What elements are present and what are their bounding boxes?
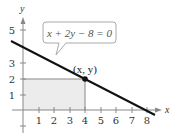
x-tick-2: 2	[51, 115, 57, 126]
y-tick-5: 5	[9, 25, 15, 36]
y-axis: 1 2 3 5 y	[9, 3, 26, 133]
y-tick-3: 3	[9, 58, 15, 69]
y-tick-1: 1	[9, 90, 15, 101]
shaded-region	[23, 79, 85, 110]
y-tick-2: 2	[9, 74, 15, 85]
x-tick-8: 8	[144, 115, 150, 126]
x-tick-7: 7	[129, 115, 135, 126]
x-axis-arrow-icon	[155, 108, 162, 113]
y-axis-label: y	[19, 3, 25, 14]
equation-label: x + 2y − 8 = 0	[46, 27, 113, 39]
x-tick-5: 5	[98, 115, 104, 126]
x-tick-6: 6	[113, 115, 119, 126]
chart-canvas: 1 2 3 4 5 6 7 8 x 1 2 3 5 y (x, y) x + 2…	[0, 0, 178, 139]
x-tick-3: 3	[67, 115, 73, 126]
x-axis-label: x	[164, 104, 170, 115]
point-marker	[82, 76, 88, 82]
point-label: (x, y)	[73, 63, 97, 76]
equation-callout: x + 2y − 8 = 0	[43, 22, 116, 55]
x-tick-4: 4	[82, 115, 88, 126]
x-tick-1: 1	[36, 115, 42, 126]
y-axis-arrow-icon	[21, 17, 26, 24]
